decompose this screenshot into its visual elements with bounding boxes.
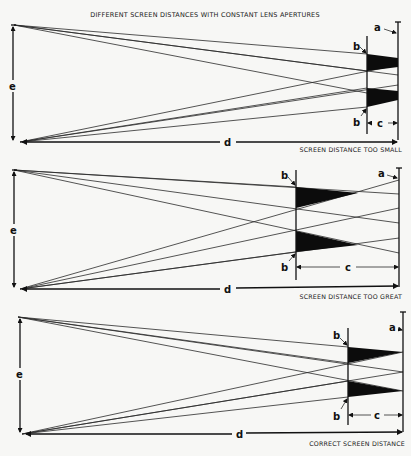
light-rays [18,317,403,434]
label-c: c [345,262,351,273]
label-d: d [224,137,231,148]
caption-screen-distance-too-small: SCREEN DISTANCE TOO SMALL [300,146,403,153]
blocked-region-top [296,187,358,208]
panel-screen-distance-too-great: e d c a b b SCREEN DISTANCE TOO GREAT [10,168,402,300]
diagram-canvas: DIFFERENT SCREEN DISTANCES WITH CONSTANT… [0,0,411,456]
diagram-title: DIFFERENT SCREEN DISTANCES WITH CONSTANT… [90,11,320,19]
blocked-region-bottom [296,231,358,252]
label-b-bottom: b [281,262,288,273]
caption-screen-distance-too-great: SCREEN DISTANCE TOO GREAT [299,293,402,300]
label-b-top: b [353,41,360,52]
label-a: a [378,168,385,179]
label-b-top: b [281,170,288,181]
label-a: a [389,322,396,333]
label-c: c [377,118,383,129]
label-a: a [374,22,381,33]
light-rays [14,170,399,289]
label-b-top: b [333,330,340,341]
panel-correct-screen-distance: e d c a b b CORRECT SCREEN DISTANCE [16,312,406,447]
label-e: e [10,225,17,236]
label-d: d [236,429,243,440]
panel-screen-distance-too-small: e d c a b b SCREEN DISTANCE TOO SMALL [9,22,402,153]
label-e: e [16,369,23,380]
blocked-region-bottom [348,381,403,397]
label-e: e [9,81,16,92]
label-b-bottom: b [333,411,340,422]
label-b-bottom: b [353,117,360,128]
blocked-region-top [348,347,403,363]
blocked-region-bottom [367,88,398,107]
label-d: d [224,284,231,295]
light-rays [14,25,398,142]
caption-correct-screen-distance: CORRECT SCREEN DISTANCE [309,440,405,447]
label-c: c [374,410,380,421]
blocked-region-top [367,54,398,71]
